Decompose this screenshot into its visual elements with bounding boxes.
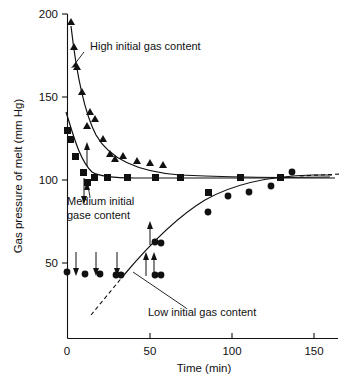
y-axis-ticks — [62, 14, 68, 263]
data-point-square — [277, 174, 284, 181]
data-point-square — [177, 174, 184, 181]
data-point-square — [237, 174, 244, 181]
data-point-square — [205, 189, 212, 196]
error-arrowhead-up-4 — [147, 221, 153, 229]
data-point-square — [104, 174, 111, 181]
data-point-triangle — [67, 18, 75, 25]
data-point-square — [91, 174, 98, 181]
y-tick-label-150: 150 — [39, 91, 58, 103]
data-point-triangle — [159, 161, 167, 168]
chart-container: 200 150 100 50 0 50 100 150 Time (min) G… — [0, 0, 345, 386]
data-point-circle — [289, 169, 296, 176]
data-point-triangle — [83, 122, 91, 129]
fit-curves — [66, 26, 341, 315]
medium-gas-fit-curve — [66, 112, 335, 178]
y-axis-title: Gas pressure of melt (mm Hg) — [12, 99, 24, 254]
gas-pressure-scatter-plot: 200 150 100 50 0 50 100 150 Time (min) G… — [0, 0, 345, 386]
data-point-circle — [97, 271, 104, 278]
data-point-circle — [82, 271, 89, 278]
x-tick-label-50: 50 — [144, 345, 157, 357]
x-axis-title: Time (min) — [177, 362, 232, 374]
data-point-square — [124, 174, 131, 181]
data-point-square — [80, 169, 87, 176]
data-point-circle — [268, 183, 275, 190]
data-point-triangle — [119, 152, 127, 159]
error-arrowhead-up-1 — [84, 142, 90, 150]
data-point-square — [72, 153, 79, 160]
data-point-triangle — [91, 115, 99, 122]
annotation-medium-gas-label-line2: gase content — [67, 209, 130, 221]
y-tick-label-100: 100 — [39, 174, 58, 186]
data-point-circle — [158, 240, 165, 247]
data-point-triangle — [70, 43, 78, 50]
data-point-circle — [152, 239, 159, 246]
data-point-square — [67, 136, 74, 143]
data-point-circle — [158, 272, 165, 279]
annotation-medium-gas-label-line1: Medium initial — [67, 195, 134, 207]
y-tick-label-50: 50 — [45, 257, 58, 269]
y-tick-label-200: 200 — [39, 8, 58, 20]
annotation-low-gas-label: Low initial gas content — [148, 306, 256, 318]
data-point-circle — [225, 193, 232, 200]
x-tick-label-100: 100 — [222, 345, 241, 357]
data-point-circle — [205, 209, 212, 216]
data-point-square — [152, 174, 159, 181]
x-axis-tick-labels: 0 50 100 150 — [64, 345, 324, 357]
data-point-triangle — [99, 135, 107, 142]
x-tick-label-0: 0 — [64, 345, 70, 357]
data-point-circle — [64, 269, 71, 276]
data-point-circle — [118, 272, 125, 279]
data-point-triangle — [78, 88, 86, 95]
error-arrowhead-down-2 — [73, 268, 79, 276]
data-point-triangle — [133, 157, 141, 164]
low-gas-extrapolation-dashed — [91, 275, 124, 315]
data-point-triangle — [146, 159, 154, 166]
x-tick-label-150: 150 — [304, 345, 323, 357]
series-low-gas-markers — [64, 169, 296, 279]
data-point-circle — [152, 272, 159, 279]
annotation-high-gas-label: High initial gas content — [90, 40, 201, 52]
error-arrowhead-up-3 — [151, 252, 157, 260]
data-point-square — [64, 127, 71, 134]
y-axis-tick-labels: 200 150 100 50 — [39, 8, 58, 269]
x-axis-ticks — [150, 333, 314, 339]
data-point-circle — [246, 189, 253, 196]
